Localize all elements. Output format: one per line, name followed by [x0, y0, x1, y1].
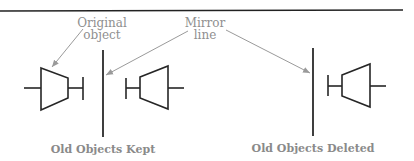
- caption-old-objects-kept: Old Objects Kept: [51, 143, 156, 156]
- original-object-label-line2: object: [83, 28, 120, 42]
- mirror-line-label-line2: line: [194, 28, 217, 42]
- original-object-arrow: [52, 29, 83, 67]
- top-rule: [0, 10, 403, 11]
- mirrored-object-shape-deleted: [328, 64, 386, 107]
- mirror-line-arrow-right: [226, 30, 310, 73]
- caption-old-objects-deleted: Old Objects Deleted: [252, 142, 375, 155]
- original-object-shape: [24, 68, 83, 110]
- mirror-diagram: Original object Mirror line Old Objects …: [0, 0, 414, 161]
- mirrored-object-shape-kept: [126, 66, 184, 109]
